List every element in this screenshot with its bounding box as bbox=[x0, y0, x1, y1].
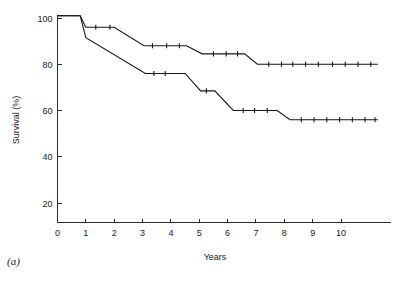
lower-survival-curve bbox=[58, 16, 378, 120]
x-tick-label-1: 1 bbox=[83, 228, 88, 238]
y-tick-label-100: 100 bbox=[37, 14, 52, 24]
y-tick-label-40: 40 bbox=[42, 152, 52, 162]
survival-curves-group bbox=[58, 16, 378, 123]
x-tick-label-10: 10 bbox=[336, 228, 346, 238]
x-tick-label-7: 7 bbox=[253, 228, 258, 238]
x-tick-label-5: 5 bbox=[197, 228, 202, 238]
x-axis-title: Years bbox=[204, 252, 227, 262]
x-axis-ticks: 012345678910 bbox=[55, 219, 346, 238]
x-tick-label-8: 8 bbox=[282, 228, 287, 238]
x-tick-label-0: 0 bbox=[55, 228, 60, 238]
kaplan-meier-plot: 012345678910 20406080100 Years Survival … bbox=[0, 0, 402, 284]
y-axis-title: Survival (%) bbox=[11, 96, 21, 145]
y-tick-label-60: 60 bbox=[42, 106, 52, 116]
x-tick-label-3: 3 bbox=[140, 228, 145, 238]
survival-figure-panel: 012345678910 20406080100 Years Survival … bbox=[0, 0, 402, 284]
y-tick-label-20: 20 bbox=[42, 199, 52, 209]
x-tick-label-2: 2 bbox=[112, 228, 117, 238]
x-tick-label-9: 9 bbox=[310, 228, 315, 238]
x-tick-label-6: 6 bbox=[225, 228, 230, 238]
x-tick-label-4: 4 bbox=[168, 228, 173, 238]
y-tick-label-80: 80 bbox=[42, 60, 52, 70]
upper-survival-curve bbox=[58, 16, 378, 65]
panel-label: (a) bbox=[7, 255, 20, 267]
